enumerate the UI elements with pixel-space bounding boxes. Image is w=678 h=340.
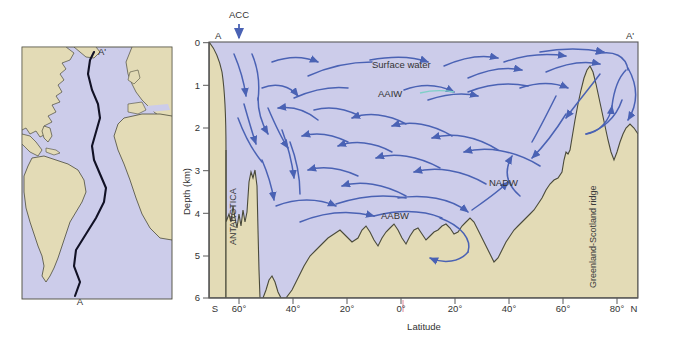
latitude-tick-60s: 60° — [232, 303, 247, 314]
latitude-hemisphere-south: S — [212, 303, 218, 314]
depth-tick-4: 4 — [195, 208, 200, 219]
greenland-scotland-ridge-label: Greenland-Scotland ridge — [588, 185, 598, 288]
nadw-label: NADW — [489, 177, 518, 188]
acc-label: ACC — [229, 9, 249, 20]
latitude-tick-20n: 20° — [448, 303, 463, 314]
cross-section-panel: Surface water AAIW NADW AABW ANTARCTICA … — [181, 9, 638, 332]
ocean-circulation-figure: A A' — [0, 0, 678, 340]
seafloor-profile — [209, 42, 226, 298]
latitude-axis-title: Latitude — [407, 321, 441, 332]
latitude-tick-60n: 60° — [556, 303, 571, 314]
depth-tick-0: 0 — [195, 37, 200, 48]
figure-canvas: A A' — [0, 0, 678, 340]
aabw-label: AABW — [381, 210, 409, 221]
depth-tick-3: 3 — [195, 165, 200, 176]
antarctica-label: ANTARCTICA — [228, 188, 238, 245]
latitude-tick-20s: 20° — [340, 303, 355, 314]
depth-tick-2: 2 — [195, 122, 200, 133]
depth-tick-1: 1 — [195, 80, 200, 91]
section-end-label: A' — [626, 30, 634, 41]
map-transect-end-label: A' — [98, 46, 106, 57]
latitude-tick-40s: 40° — [286, 303, 301, 314]
latitude-tick-40n: 40° — [502, 303, 517, 314]
aaiw-label: AAIW — [378, 88, 402, 99]
map-transect-start-label: A — [77, 296, 84, 307]
depth-axis-title: Depth (km) — [181, 168, 192, 215]
depth-axis-ticks — [203, 43, 209, 298]
surface-water-label: Surface water — [372, 59, 431, 70]
depth-tick-6: 6 — [195, 292, 200, 303]
section-start-label: A — [215, 30, 222, 41]
latitude-hemisphere-north: N — [631, 303, 638, 314]
depth-tick-5: 5 — [195, 250, 200, 261]
latitude-tick-80n: 80° — [610, 303, 625, 314]
depth-axis: 0 1 2 3 4 5 6 Depth (km) — [181, 37, 209, 303]
latitude-tick-0: 0° — [396, 303, 405, 314]
latitude-axis: S 60° 40° 20° 0° 20° 40° 60° 80° N Latit… — [209, 298, 638, 332]
inset-map: A A' — [22, 46, 172, 307]
